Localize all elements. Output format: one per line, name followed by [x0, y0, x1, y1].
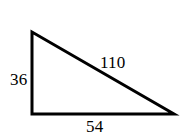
side-label-hypotenuse: 110	[100, 54, 125, 71]
side-label-vertical-leg: 36	[10, 71, 27, 88]
right-triangle-outline	[32, 32, 174, 114]
side-label-base: 54	[86, 118, 103, 135]
geometry-figure-canvas: 36 110 54	[0, 0, 187, 136]
triangle-shape	[0, 0, 187, 136]
